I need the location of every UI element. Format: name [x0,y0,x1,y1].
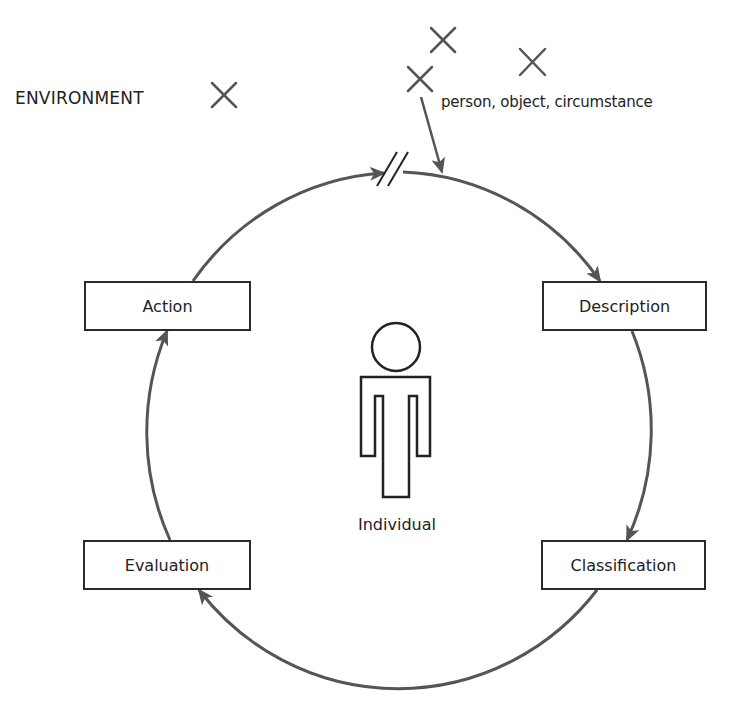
environment-label: ENVIRONMENT [15,88,144,108]
person-icon [361,323,430,497]
x-marker-icon [212,83,236,107]
x-marker-icon [520,49,545,75]
stage-label-evaluation: Evaluation [125,556,209,575]
stage-label-description: Description [579,297,670,316]
person-body [361,377,430,497]
x-marker-icon [408,67,432,91]
individual-label: Individual [358,515,436,534]
arc-classification-to-evaluation [199,590,597,689]
arc-break-to-description [403,172,600,281]
stage-label-action: Action [142,297,192,316]
arc-description-to-classification [627,331,651,540]
stage-box-action: Action [84,281,251,331]
stimulus-label: person, object, circumstance [441,93,653,111]
stimulus-arrow [421,97,442,172]
arc-action-to-break [193,173,384,281]
stage-label-classification: Classification [571,556,677,575]
x-marker-icon [431,28,455,52]
stage-box-description: Description [542,281,707,331]
person-head [372,323,420,371]
break-mark-icon [377,152,408,186]
arc-evaluation-to-action [147,331,170,540]
stage-box-evaluation: Evaluation [83,540,251,590]
stage-box-classification: Classification [541,540,706,590]
